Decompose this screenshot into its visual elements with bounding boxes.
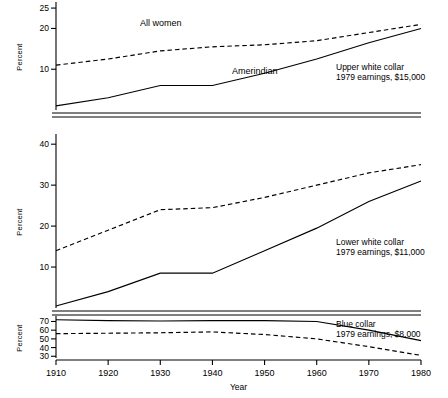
- series-label-all-women: All women: [140, 18, 182, 28]
- panel-annotation-title: Blue collar: [336, 319, 376, 329]
- panel-lower-white-collar: 40302010PercentLower white collar1979 ea…: [15, 134, 425, 308]
- panel-annotation-earnings: 1979 earnings, $15,000: [336, 72, 426, 82]
- y-axis-title: Percent: [15, 324, 24, 352]
- panel-annotation-earnings: 1979 earnings, $11,000: [336, 247, 425, 257]
- panel-blue-collar: 7060504030PercentBlue collar1979 earning…: [15, 316, 421, 361]
- y-tick-label: 30: [40, 351, 50, 361]
- x-axis-title: Year: [230, 382, 247, 392]
- y-tick-label: 30: [40, 180, 50, 190]
- x-tick-label: 1970: [359, 368, 379, 378]
- y-axis-title: Percent: [15, 43, 24, 71]
- panel-annotation-earnings: 1979 earnings, $8,000: [336, 329, 421, 339]
- y-tick-label: 40: [40, 139, 50, 149]
- x-tick-label: 1960: [307, 368, 327, 378]
- series-label-amerindian: Amerindian: [232, 66, 278, 76]
- y-tick-label: 20: [40, 23, 50, 33]
- x-tick-label: 1910: [46, 368, 66, 378]
- x-tick-label: 1930: [150, 368, 170, 378]
- series-line-all-women: [56, 24, 421, 65]
- panel-annotation-title: Upper white collar: [336, 62, 404, 72]
- x-tick-label: 1950: [255, 368, 275, 378]
- y-tick-label: 10: [40, 64, 50, 74]
- panel-annotation-title: Lower white collar: [336, 237, 404, 247]
- y-tick-label: 20: [40, 221, 50, 231]
- y-axis-title: Percent: [15, 208, 24, 236]
- x-tick-label: 1940: [202, 368, 222, 378]
- x-tick-label: 1980: [411, 368, 431, 378]
- panel-upper-white-collar: 252010PercentAll womenAmerindianUpper wh…: [15, 2, 426, 110]
- y-tick-label: 25: [40, 3, 50, 13]
- x-tick-label: 1920: [98, 368, 118, 378]
- y-tick-label: 10: [40, 262, 50, 272]
- three-panel-line-chart: 252010PercentAll womenAmerindianUpper wh…: [0, 0, 448, 398]
